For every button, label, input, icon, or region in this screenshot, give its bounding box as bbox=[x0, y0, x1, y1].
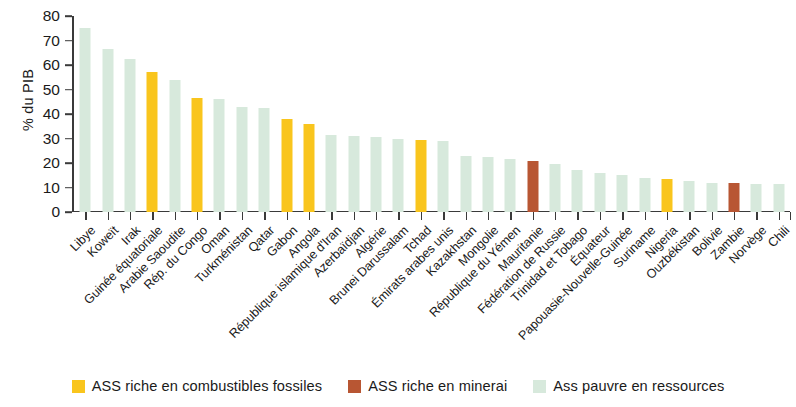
bar[interactable] bbox=[326, 135, 337, 212]
bar-slot bbox=[410, 16, 432, 212]
x-tick-label: Arabie Saoudite bbox=[116, 224, 188, 296]
bar[interactable] bbox=[415, 140, 426, 212]
x-tick-label: Trinidad et Tobago bbox=[509, 224, 590, 305]
x-tick-label: Chili bbox=[766, 224, 792, 250]
bar-slot bbox=[745, 16, 767, 212]
bar-slot bbox=[164, 16, 186, 212]
x-tick-mark bbox=[555, 212, 556, 220]
legend-swatch-icon bbox=[72, 380, 85, 393]
x-tick-mark bbox=[443, 212, 444, 220]
x-tick-label: République islamique d'Iran bbox=[228, 224, 345, 341]
bar[interactable] bbox=[661, 179, 672, 212]
x-tick-label: Libye bbox=[68, 224, 98, 254]
bar[interactable] bbox=[303, 124, 314, 212]
x-tick-mark bbox=[264, 212, 265, 220]
bar-slot bbox=[678, 16, 700, 212]
x-tick-mark bbox=[756, 212, 757, 220]
bar[interactable] bbox=[594, 173, 605, 212]
bar-slot bbox=[208, 16, 230, 212]
x-tick-label: Émirats arabes unis bbox=[370, 224, 457, 311]
x-tick-mark bbox=[779, 212, 780, 220]
x-tick-mark bbox=[376, 212, 377, 220]
bar-slot bbox=[141, 16, 163, 212]
bar-slot bbox=[701, 16, 723, 212]
x-tick-mark bbox=[577, 212, 578, 220]
bar[interactable] bbox=[147, 72, 158, 212]
x-tick-label: République du Yémen bbox=[428, 224, 524, 320]
bar-slot bbox=[522, 16, 544, 212]
y-tick-mark bbox=[65, 138, 72, 140]
bar-slot bbox=[186, 16, 208, 212]
bar[interactable] bbox=[348, 136, 359, 212]
x-tick-label: Mauritanie bbox=[496, 224, 546, 274]
x-tick-mark bbox=[790, 212, 791, 220]
bar[interactable] bbox=[460, 156, 471, 212]
x-tick-label: Équateur bbox=[568, 224, 613, 269]
x-tick-label: Irak bbox=[119, 224, 143, 248]
bar-slot bbox=[253, 16, 275, 212]
x-tick-label: Tchad bbox=[401, 224, 434, 257]
bar[interactable] bbox=[729, 183, 740, 212]
x-tick-mark bbox=[152, 212, 153, 220]
legend-swatch-icon bbox=[348, 380, 361, 393]
bar[interactable] bbox=[214, 99, 225, 212]
bar[interactable] bbox=[505, 159, 516, 212]
bar[interactable] bbox=[684, 181, 695, 212]
bar[interactable] bbox=[169, 80, 180, 212]
bar-slot bbox=[633, 16, 655, 212]
bar[interactable] bbox=[773, 184, 784, 212]
bar[interactable] bbox=[102, 49, 113, 212]
bar-slot bbox=[231, 16, 253, 212]
y-tick-label: 0 bbox=[51, 204, 60, 220]
bar[interactable] bbox=[751, 184, 762, 212]
bar[interactable] bbox=[639, 178, 650, 212]
x-tick-label: Koweït bbox=[85, 224, 121, 260]
bar-slot bbox=[343, 16, 365, 212]
legend-swatch-icon bbox=[533, 380, 546, 393]
legend-item-poor[interactable]: Ass pauvre en ressources bbox=[533, 378, 724, 394]
bar[interactable] bbox=[572, 170, 583, 212]
x-tick-mark bbox=[175, 212, 176, 220]
bar-slot bbox=[298, 16, 320, 212]
bar[interactable] bbox=[482, 157, 493, 212]
y-axis-ticks: 01020304050607080 bbox=[0, 0, 72, 226]
y-tick-label: 10 bbox=[43, 180, 60, 196]
bar-slot bbox=[499, 16, 521, 212]
y-tick-label: 50 bbox=[43, 82, 60, 98]
x-tick-label: Ouzbékistan bbox=[645, 224, 703, 282]
bar[interactable] bbox=[236, 107, 247, 212]
x-tick-mark bbox=[645, 212, 646, 220]
x-tick-label: Rép. du Congo bbox=[142, 224, 210, 292]
bar[interactable] bbox=[259, 108, 270, 212]
bar[interactable] bbox=[124, 59, 135, 212]
bar[interactable] bbox=[617, 175, 628, 212]
bar-slot bbox=[96, 16, 118, 212]
y-tick-label: 40 bbox=[43, 106, 60, 122]
bar-slot bbox=[365, 16, 387, 212]
legend-item-fossil[interactable]: ASS riche en combustibles fossiles bbox=[72, 378, 323, 394]
bar[interactable] bbox=[371, 137, 382, 212]
bar-slot bbox=[566, 16, 588, 212]
bar[interactable] bbox=[80, 28, 91, 212]
x-tick-mark bbox=[309, 212, 310, 220]
bar[interactable] bbox=[192, 98, 203, 212]
bar[interactable] bbox=[527, 161, 538, 212]
plot-area bbox=[74, 16, 790, 212]
legend-item-mineral[interactable]: ASS riche en minerai bbox=[348, 378, 507, 394]
x-tick-label: Azerbaïdjan bbox=[311, 224, 367, 280]
x-tick-mark bbox=[510, 212, 511, 220]
x-tick-label: Papouasie-Nouvelle-Guinée bbox=[517, 224, 636, 343]
x-tick-label: Zambie bbox=[709, 224, 748, 263]
bar[interactable] bbox=[706, 183, 717, 212]
y-tick-label: 70 bbox=[43, 33, 60, 49]
bar[interactable] bbox=[550, 164, 561, 212]
bar[interactable] bbox=[281, 119, 292, 212]
bar-slot bbox=[432, 16, 454, 212]
bar-slot bbox=[74, 16, 96, 212]
bar[interactable] bbox=[393, 139, 404, 213]
bar[interactable] bbox=[438, 141, 449, 212]
x-tick-label: Guinée équatoriale bbox=[82, 224, 165, 307]
legend-label: Ass pauvre en ressources bbox=[553, 378, 724, 394]
x-tick-mark bbox=[488, 212, 489, 220]
x-tick-mark bbox=[287, 212, 288, 220]
